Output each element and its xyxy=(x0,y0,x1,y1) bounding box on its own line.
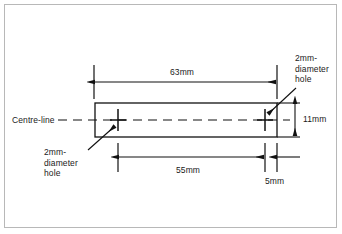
dimension-label-11mm: 11mm xyxy=(303,114,326,125)
hole-callout-top-right-line-2: diameter xyxy=(295,64,329,75)
dimension-5mm xyxy=(277,143,300,172)
hole-callout-top-right: 2mm- diameter hole xyxy=(295,53,329,85)
dimension-label-63mm: 63mm xyxy=(170,67,194,78)
leader-line-top-right xyxy=(268,88,296,114)
drawing-canvas: 63mm 55mm 5mm 11mm Centre-line 2mm- diam… xyxy=(0,0,342,234)
hole-callout-bottom-left: 2mm- diameter hole xyxy=(44,147,78,179)
hole-callout-bottom-left-line-2: diameter xyxy=(44,158,78,169)
centre-line-label: Centre-line xyxy=(12,115,55,126)
hole-callout-top-right-line-1: 2mm- xyxy=(295,53,329,64)
dimension-label-55mm: 55mm xyxy=(176,165,200,176)
hole-callout-bottom-left-line-3: hole xyxy=(44,168,78,179)
hole-callout-top-right-line-3: hole xyxy=(295,74,329,85)
hole-callout-bottom-left-line-1: 2mm- xyxy=(44,147,78,158)
dimension-label-5mm: 5mm xyxy=(265,176,284,187)
